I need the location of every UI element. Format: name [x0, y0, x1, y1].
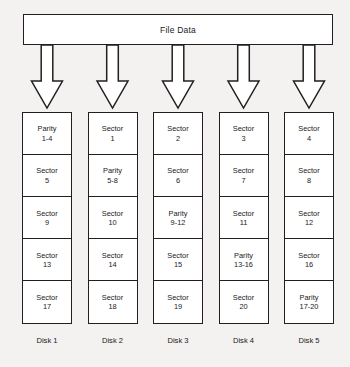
cell-kind: Parity [300, 293, 319, 302]
disk-label-1: Disk 1 [22, 336, 72, 345]
file-data-box: File Data [23, 14, 333, 45]
cell-range: 10 [108, 218, 116, 227]
disk-cell: Sector 18 [88, 280, 138, 324]
cell-range: 15 [174, 260, 182, 269]
disk-cell: Sector 20 [219, 280, 269, 324]
cell-kind: Sector [36, 251, 57, 260]
raid-striping-diagram: File Data Parity 1-4 Sector 5 Sector 9 [0, 0, 350, 367]
cell-kind: Sector [298, 251, 319, 260]
disk-cell: Parity 5-8 [88, 154, 138, 198]
cell-range: 19 [174, 302, 182, 311]
cell-kind: Sector [233, 124, 254, 133]
disk-label-5: Disk 5 [284, 336, 334, 345]
disk-cell: Sector 10 [88, 196, 138, 240]
cell-range: 17-20 [300, 302, 319, 311]
disk-cell: Sector 14 [88, 238, 138, 282]
cell-kind: Sector [233, 166, 254, 175]
cell-kind: Sector [298, 209, 319, 218]
down-block-arrow-icon-5 [294, 45, 325, 108]
cell-kind: Sector [36, 166, 57, 175]
down-block-arrow-icon-1 [32, 45, 63, 108]
disk-cell: Sector 7 [219, 154, 269, 198]
cell-range: 11 [240, 218, 248, 227]
cell-range: 13 [43, 260, 51, 269]
cell-range: 13-16 [234, 260, 253, 269]
cell-range: 5 [45, 176, 49, 185]
cell-range: 9 [45, 218, 49, 227]
disk-label-2: Disk 2 [88, 336, 138, 345]
disk-column-4: Sector 3 Sector 7 Sector 11 Parity 13-16… [219, 112, 269, 324]
disk-cell: Parity 9-12 [153, 196, 203, 240]
disk-label-4: Disk 4 [219, 336, 269, 345]
down-block-arrow-icon-2 [97, 45, 128, 108]
cell-range: 5-8 [107, 176, 118, 185]
disk-cell: Sector 11 [219, 196, 269, 240]
disk-cell: Sector 12 [284, 196, 334, 240]
disk-cell: Sector 19 [153, 280, 203, 324]
disk-column-2: Sector 1 Parity 5-8 Sector 10 Sector 14 … [88, 112, 138, 324]
disk-column-3: Sector 2 Sector 6 Parity 9-12 Sector 15 … [153, 112, 203, 324]
disk-cell: Sector 2 [153, 112, 203, 156]
cell-kind: Sector [102, 124, 123, 133]
cell-kind: Parity [103, 166, 122, 175]
cell-kind: Sector [167, 166, 188, 175]
disk-cell: Sector 4 [284, 112, 334, 156]
cell-range: 4 [307, 134, 311, 143]
disk-cell: Sector 17 [22, 280, 72, 324]
cell-kind: Sector [233, 209, 254, 218]
disk-cell: Sector 13 [22, 238, 72, 282]
cell-kind: Sector [167, 251, 188, 260]
cell-kind: Sector [36, 209, 57, 218]
cell-kind: Sector [102, 209, 123, 218]
down-block-arrow-icon-3 [163, 45, 194, 108]
disk-cell: Sector 1 [88, 112, 138, 156]
cell-range: 1 [110, 134, 114, 143]
cell-kind: Parity [169, 209, 188, 218]
disk-label-3: Disk 3 [153, 336, 203, 345]
cell-kind: Sector [233, 293, 254, 302]
cell-range: 1-4 [42, 134, 53, 143]
cell-range: 12 [305, 218, 313, 227]
disk-cell: Sector 5 [22, 154, 72, 198]
disk-cell: Sector 9 [22, 196, 72, 240]
disk-column-1: Parity 1-4 Sector 5 Sector 9 Sector 13 S… [22, 112, 72, 324]
file-data-label: File Data [160, 25, 196, 35]
cell-range: 18 [108, 302, 116, 311]
disk-cell: Sector 8 [284, 154, 334, 198]
disk-cell: Parity 13-16 [219, 238, 269, 282]
cell-kind: Sector [298, 124, 319, 133]
cell-range: 16 [305, 260, 313, 269]
cell-range: 6 [176, 176, 180, 185]
cell-kind: Sector [298, 166, 319, 175]
disk-column-5: Sector 4 Sector 8 Sector 12 Sector 16 Pa… [284, 112, 334, 324]
cell-range: 7 [241, 176, 245, 185]
cell-range: 20 [239, 302, 247, 311]
cell-kind: Sector [102, 293, 123, 302]
disk-cell: Parity 17-20 [284, 280, 334, 324]
disk-cell: Parity 1-4 [22, 112, 72, 156]
cell-range: 8 [307, 176, 311, 185]
cell-range: 17 [43, 302, 51, 311]
cell-kind: Parity [38, 124, 57, 133]
cell-kind: Parity [234, 251, 253, 260]
cell-range: 14 [108, 260, 116, 269]
disk-cell: Sector 3 [219, 112, 269, 156]
cell-kind: Sector [36, 293, 57, 302]
down-block-arrow-icon-4 [228, 45, 259, 108]
disk-cell: Sector 15 [153, 238, 203, 282]
disk-cell: Sector 6 [153, 154, 203, 198]
cell-range: 2 [176, 134, 180, 143]
cell-kind: Sector [167, 124, 188, 133]
cell-kind: Sector [167, 293, 188, 302]
cell-kind: Sector [102, 251, 123, 260]
disk-cell: Sector 16 [284, 238, 334, 282]
cell-range: 9-12 [171, 218, 186, 227]
cell-range: 3 [241, 134, 245, 143]
